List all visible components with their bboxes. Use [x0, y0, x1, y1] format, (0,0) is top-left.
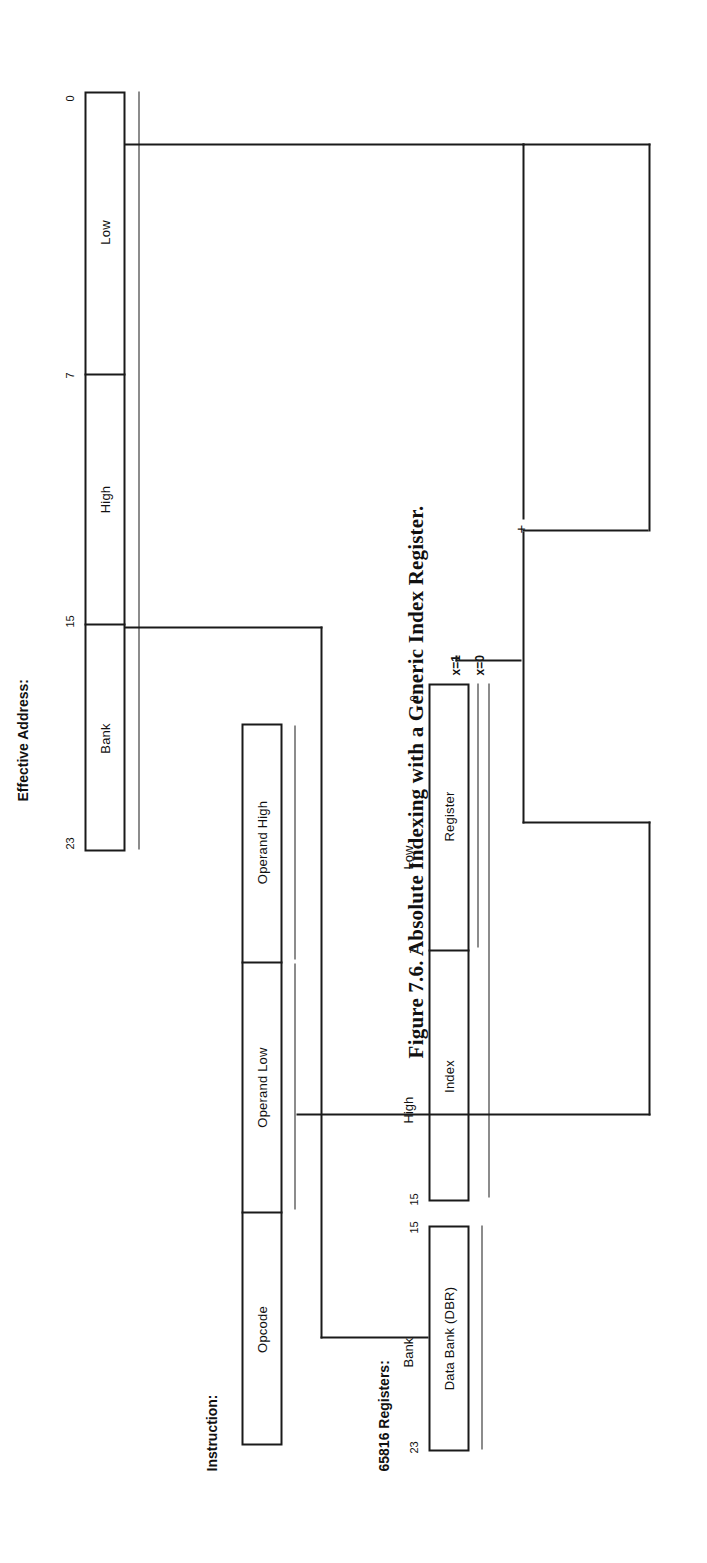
wire-operand-into-adder-down [522, 821, 650, 823]
wire-adder-output-up [124, 143, 524, 145]
operand-low-tap [294, 963, 295, 1209]
wire-operand-bus-up [296, 1113, 650, 1115]
index-column-label-high: High [400, 1096, 415, 1123]
index-bit-15: 15 [407, 1193, 419, 1205]
wire-index-into-adder-down [522, 529, 648, 531]
wire-index-tap-stub [455, 655, 457, 661]
figure-canvas: Effective Address: 23 15 7 0 Bank High L… [0, 0, 707, 1563]
index-tap-x1 [477, 683, 478, 947]
dbr-column-label: Bank [400, 1337, 415, 1367]
instruction-field-operand-high: Operand High [241, 723, 282, 961]
ea-underline [138, 91, 139, 849]
data-bank-register-label: Data Bank (DBR) [428, 1225, 469, 1451]
ea-bit-7: 7 [63, 372, 75, 378]
ea-field-bank: Bank [84, 625, 125, 851]
wire-bank-horizontal [320, 626, 322, 1338]
index-condition-x0: x=0 [472, 655, 486, 675]
wire-index-bus-riser [522, 143, 650, 145]
instruction-heading: Instruction: [203, 1394, 219, 1471]
index-register-label-index: Index [428, 951, 469, 1201]
wire-index-bus-horizontal [648, 143, 650, 531]
operand-high-tap [294, 725, 295, 959]
ea-field-high: High [84, 375, 125, 623]
wire-operand-bus-horizontal [648, 821, 650, 1115]
wire-operand-into-adder-horizontal [522, 531, 524, 823]
wire-adder-output-horizontal [522, 143, 524, 519]
dbr-bit-15: 15 [407, 1221, 419, 1233]
instruction-field-opcode: Opcode [241, 1213, 282, 1445]
ea-field-low: Low [84, 91, 125, 373]
instruction-field-operand-low: Operand Low [241, 963, 282, 1211]
wire-bank-up-to-ea [124, 626, 322, 628]
index-tap-x0 [488, 683, 489, 1197]
wire-index-tap-riser [455, 659, 521, 661]
ea-bit-15: 15 [63, 615, 75, 627]
wire-bank-down-to-dbr [320, 1336, 428, 1338]
ea-bit-0: 0 [63, 95, 75, 101]
registers-heading: 65816 Registers: [375, 1360, 391, 1471]
dbr-bit-23: 23 [407, 1441, 419, 1453]
index-register-label-register: Register [428, 683, 469, 949]
data-bank-tap [481, 1225, 482, 1449]
figure-caption: Figure 7.6. Absolute Indexing with a Gen… [404, 505, 429, 1058]
ea-bit-23: 23 [63, 837, 75, 849]
effective-address-heading: Effective Address: [14, 679, 30, 801]
